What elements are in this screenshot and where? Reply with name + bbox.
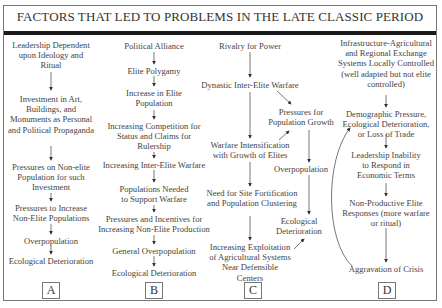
flow-arrows [0,0,442,308]
